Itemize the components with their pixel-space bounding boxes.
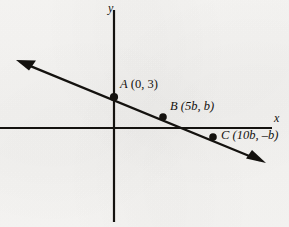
point-a-marker	[110, 93, 118, 101]
coordinate-plane-figure: y x A (0, 3) B (5b, b) C (10b, –b)	[0, 0, 289, 227]
point-c-marker	[209, 133, 217, 141]
point-b-name: B	[170, 99, 178, 113]
arrowhead-upper-left-icon	[16, 60, 36, 71]
point-a-coords: (0, 3)	[131, 77, 158, 91]
point-b-coords: (5b, b)	[181, 99, 214, 113]
x-axis-label: x	[274, 112, 279, 124]
graph-canvas	[0, 0, 289, 227]
arrowhead-lower-right-icon	[246, 150, 266, 163]
point-b-marker	[159, 113, 167, 121]
point-c-coords: (10b, –b)	[232, 128, 278, 142]
y-axis-label: y	[108, 2, 113, 14]
point-c-label: C (10b, –b)	[221, 129, 278, 142]
point-a-name: A	[120, 77, 128, 91]
point-b-label: B (5b, b)	[170, 100, 214, 113]
point-c-name: C	[221, 128, 229, 142]
point-a-label: A (0, 3)	[120, 78, 158, 91]
